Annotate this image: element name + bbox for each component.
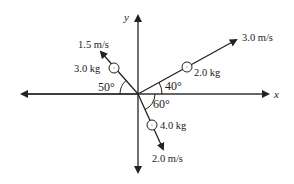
object-2kg: 3.0 m/s 2.0 kg 40° <box>138 32 273 94</box>
angle-arc-50 <box>120 80 126 94</box>
object-4kg: 4.0 kg 2.0 m/s 60° <box>138 94 187 164</box>
angle-label-50: 50° <box>98 80 115 94</box>
y-axis-label: y <box>123 11 129 23</box>
mass-label-2: 2.0 kg <box>194 67 221 78</box>
speed-label-3: 2.0 m/s <box>152 153 183 164</box>
angle-label-60: 60° <box>153 97 170 111</box>
x-axis-label: x <box>273 88 279 100</box>
angle-arc-40 <box>159 83 162 95</box>
x-axis: x <box>22 88 279 100</box>
momentum-diagram: x y 1.5 m/s 3.0 kg 50° 3.0 m/s 2.0 kg 40… <box>0 0 294 184</box>
angle-label-40: 40° <box>165 79 182 93</box>
object-3kg: 1.5 m/s 3.0 kg 50° <box>74 39 138 94</box>
speed-label-1: 1.5 m/s <box>78 39 109 50</box>
mass-label-1: 3.0 kg <box>74 63 101 74</box>
speed-label-2: 3.0 m/s <box>242 32 273 43</box>
mass-label-3: 4.0 kg <box>160 120 187 131</box>
